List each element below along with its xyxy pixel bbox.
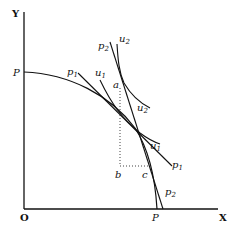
u2-label-bottom: u2 — [137, 102, 148, 115]
y-axis-label: Y — [11, 8, 20, 19]
u1-label-top: u1 — [95, 67, 106, 80]
price-line-p2 — [110, 42, 163, 209]
point-a-label: a — [113, 79, 119, 90]
point-b-label: b — [115, 169, 121, 180]
u2-label-top: u2 — [119, 33, 130, 46]
p2-label-bottom: p2 — [165, 186, 176, 199]
point-c-label: c — [142, 169, 148, 180]
ppf-x-intercept-label: P — [151, 212, 159, 223]
p2-label-top: p2 — [98, 40, 109, 53]
ppf-y-intercept-label: P — [12, 67, 20, 78]
p1-label-bottom: p1 — [172, 159, 183, 172]
x-axis-label: X — [219, 212, 227, 223]
u1-label-bottom: u1 — [150, 140, 161, 153]
indifference-curve-u2 — [117, 44, 150, 108]
ppf-diagram: Y X O P P p1 p1 p2 p2 u1 u1 u2 u2 a b c — [0, 0, 238, 233]
indifference-curve-u1 — [100, 80, 160, 144]
p1-label-top: p1 — [67, 66, 78, 79]
origin-label: O — [20, 212, 29, 223]
ppf-curve — [24, 72, 157, 209]
